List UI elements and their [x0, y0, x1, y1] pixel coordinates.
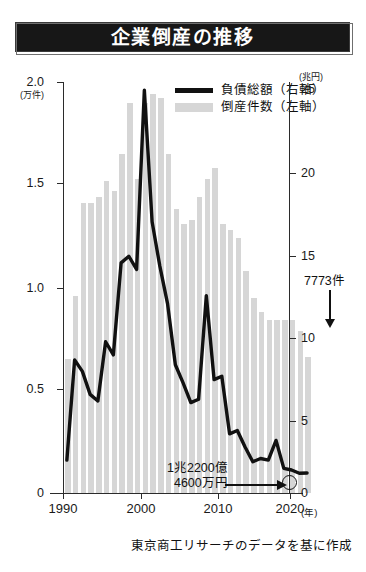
right-tick-5: [290, 421, 296, 422]
annotation-liabilities-line2: 4600万円: [174, 476, 228, 490]
right-tick-25: [290, 89, 296, 90]
annotation-cases-label: 7773件: [304, 274, 345, 288]
right-tick-label-25: 25: [301, 83, 315, 96]
right-tick-20: [290, 173, 296, 174]
right-tick-label-0: 0: [301, 487, 308, 500]
x-tick-2020: [290, 493, 291, 499]
chart-source-note: 東京商工リサーチのデータを基に作成: [0, 535, 352, 554]
x-tick-label-2010: 2010: [204, 502, 233, 515]
left-tick-label-2-0: 2.0: [27, 76, 44, 89]
chart-title-banner: 企業倒産の推移: [13, 20, 352, 54]
right-tick-label-15: 15: [301, 250, 315, 263]
left-tick-label-0-5: 0.5: [27, 383, 44, 396]
left-tick-0-5: [57, 389, 63, 390]
left-tick-1-0: [57, 288, 63, 289]
line-series-liabilities: [63, 82, 290, 493]
annotation-liabilities-arrow-icon: [225, 484, 278, 486]
page-title: 企業倒産の推移: [111, 28, 255, 47]
left-tick-1-5: [57, 183, 63, 184]
x-tick-2010: [218, 493, 219, 499]
left-tick-label-0: 0: [37, 487, 44, 500]
x-axis-line: [50, 493, 303, 494]
annotation-liabilities-line1: 1兆2200億: [167, 461, 228, 475]
right-tick-label-10: 10: [301, 332, 315, 345]
x-axis-unit: (年): [301, 505, 317, 519]
right-tick-10: [290, 338, 296, 339]
x-tick-1990: [63, 493, 64, 499]
right-axis-unit: (兆円): [299, 73, 323, 82]
left-tick-label-1-5: 1.5: [27, 177, 44, 190]
right-tick-label-5: 5: [301, 415, 308, 428]
left-axis-unit: (万件): [20, 91, 44, 100]
x-tick-label-1990: 1990: [49, 502, 78, 515]
bar-2019: [290, 320, 296, 493]
chart-title-bar: 企業倒産の推移: [15, 22, 350, 52]
bar-2020: [298, 331, 304, 493]
x-tick-label-2000: 2000: [127, 502, 156, 515]
left-tick-label-1-0: 1.0: [27, 282, 44, 295]
right-tick-15: [290, 256, 296, 257]
right-tick-label-20: 20: [301, 167, 315, 180]
left-tick-2-0: [57, 82, 63, 83]
chart-plot-area: 2.0 (万件) 1.5 1.0 0.5 0 (兆円) 25 20 15 10 …: [63, 82, 290, 493]
x-tick-2000: [141, 493, 142, 499]
annotation-liabilities-label: 1兆2200億 4600万円: [167, 461, 228, 491]
highlighted-data-point-marker: [282, 475, 297, 490]
annotation-cases-arrow-icon: [329, 290, 331, 320]
